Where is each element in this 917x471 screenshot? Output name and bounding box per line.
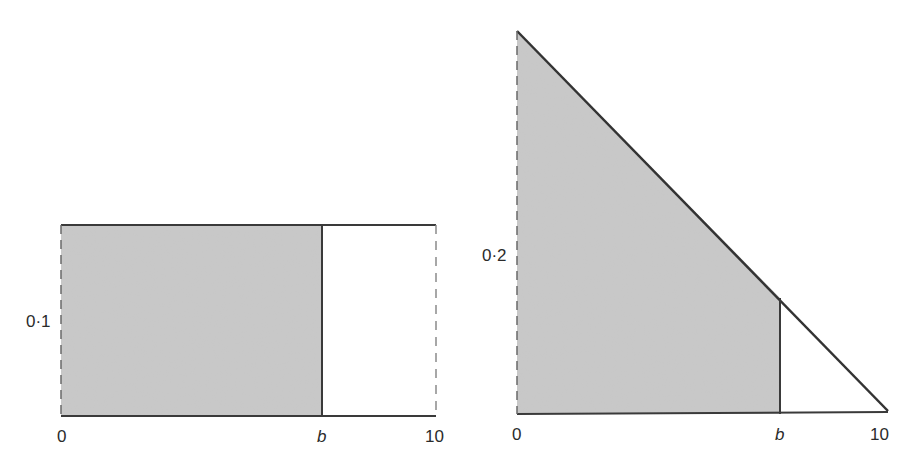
shaded-area-0-to-b — [517, 31, 780, 414]
x-label-b-uniform: b — [317, 428, 326, 445]
y-label-uniform: 0·1 — [26, 313, 51, 330]
x-label-b-triangular: b — [775, 426, 784, 443]
triangular-density-panel — [517, 31, 888, 414]
x-label-ten-triangular: 10 — [870, 426, 889, 443]
uniform-density-panel — [61, 225, 436, 416]
figure-caption-clipped — [0, 462, 917, 471]
y-label-triangular: 0·2 — [482, 247, 507, 264]
x-label-zero-triangular: 0 — [512, 426, 521, 443]
x-label-zero-uniform: 0 — [57, 428, 66, 445]
x-label-ten-uniform: 10 — [425, 428, 444, 445]
shaded-area-0-to-b — [61, 225, 322, 416]
figure-canvas — [0, 0, 917, 471]
